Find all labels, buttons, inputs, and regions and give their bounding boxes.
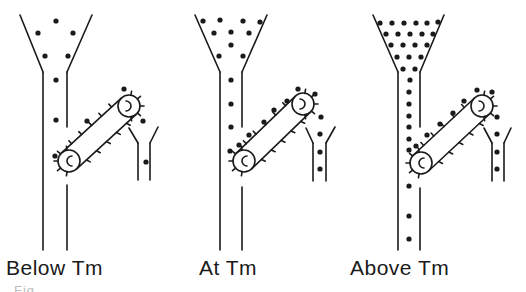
carried-particle-dot	[236, 142, 241, 147]
panel-label-above-tm: Above Tm	[350, 256, 449, 280]
rotation-arrow-icon	[126, 101, 131, 111]
particle-dot	[65, 53, 70, 58]
particle-dot	[412, 66, 417, 71]
particle-dot	[200, 18, 205, 23]
particle-dot	[394, 54, 399, 59]
pulley-hook	[410, 170, 413, 173]
collector-right-side	[504, 128, 511, 143]
collector-funnel	[306, 114, 335, 181]
carried-particle-dot	[461, 98, 466, 103]
particle-dot	[401, 20, 406, 25]
collector-left-side	[484, 128, 492, 143]
belt-hook	[431, 133, 434, 136]
particle-dot	[413, 20, 418, 25]
pulley-hook	[410, 153, 413, 156]
belt-hook	[283, 103, 286, 106]
pulley-hook	[66, 172, 67, 176]
particle-dot	[383, 31, 388, 36]
belt-hook	[109, 104, 112, 107]
funnel-conveyor-diagram	[0, 0, 526, 292]
belt-hook	[291, 131, 295, 133]
belt-hook	[116, 132, 120, 134]
rotation-arrow-icon	[479, 101, 484, 111]
carried-particle-dot	[474, 87, 479, 92]
collector-right-side	[150, 127, 158, 143]
pulley-hook	[131, 117, 132, 121]
belt-hook	[449, 152, 453, 154]
belt-hook	[469, 133, 473, 135]
rotation-arrow-icon	[67, 156, 72, 166]
carried-particle-dot	[121, 86, 126, 91]
carried-particle-dot	[295, 86, 300, 91]
panel-above-tm	[373, 15, 511, 250]
collected-particle-dot	[318, 114, 323, 119]
pulley-hook	[137, 113, 140, 116]
particle-dot	[217, 17, 222, 22]
belt-hook	[421, 143, 424, 146]
particle-dot	[406, 113, 411, 118]
particle-dot	[424, 20, 429, 25]
particle-dot	[400, 42, 405, 47]
carried-particle-dot	[489, 89, 494, 94]
belt-hook	[479, 124, 483, 126]
particle-dot	[228, 101, 233, 106]
belt-hook	[126, 123, 130, 125]
carried-particle-dot	[261, 119, 266, 124]
belt-hook	[99, 113, 102, 116]
funnel-left-side	[20, 15, 43, 72]
particle-dot	[406, 213, 411, 218]
collector-funnel	[484, 114, 511, 181]
particle-dot	[407, 77, 412, 82]
carried-particle-dot	[312, 91, 317, 96]
carried-particle-dot	[424, 132, 429, 137]
pulley-hook	[484, 91, 485, 95]
collected-particle-dot	[494, 149, 499, 154]
particle-dot	[257, 19, 262, 24]
pulley-hook	[418, 148, 419, 152]
collected-particle-dot	[494, 166, 499, 171]
particle-dot	[400, 66, 405, 71]
pulley-hook	[305, 115, 306, 119]
carried-particle-dot	[450, 110, 455, 115]
particle-dot	[412, 42, 417, 47]
pulley-hook	[490, 113, 493, 116]
belt-hook	[439, 162, 443, 164]
particle-dot	[406, 136, 411, 141]
rotation-arrow-icon	[419, 158, 424, 168]
collected-particle-dot	[317, 131, 322, 136]
particle-dot	[418, 54, 423, 59]
particle-dot	[228, 42, 233, 47]
belt-hook	[96, 151, 100, 153]
pulley-hook	[58, 151, 61, 154]
pulley-hook	[241, 146, 242, 150]
particle-dot	[395, 31, 400, 36]
figure-caption-fragment: Fig.	[14, 283, 169, 292]
funnel-right-side	[242, 15, 267, 72]
particle-dot	[53, 117, 58, 122]
pulley-hook	[233, 151, 236, 154]
particle-dot	[228, 77, 233, 82]
pulley-hook	[58, 168, 61, 171]
carried-particle-dot	[52, 153, 57, 158]
particle-dot	[240, 18, 245, 23]
pulley-hook	[241, 172, 242, 176]
collector-right-side	[326, 127, 335, 143]
rotation-arrow-icon	[300, 99, 305, 109]
particle-dot	[70, 30, 75, 35]
particle-dot	[406, 101, 411, 106]
pulley-hook	[484, 117, 485, 121]
carried-particle-dot	[246, 132, 251, 137]
collected-particle-dot	[140, 118, 145, 123]
belt-hook	[79, 132, 82, 135]
pulley-hook	[233, 168, 236, 171]
funnel-left-side	[195, 15, 220, 72]
belt-hook	[281, 140, 285, 142]
particle-dot	[406, 54, 411, 59]
collected-particle-dot	[317, 149, 322, 154]
particle-dot	[406, 124, 411, 129]
belt-hook	[271, 150, 275, 152]
panel-label-at-tm: At Tm	[199, 256, 257, 280]
funnel-right-side	[67, 15, 92, 72]
collected-particle-dot	[494, 114, 499, 119]
belt-hook	[106, 142, 110, 144]
